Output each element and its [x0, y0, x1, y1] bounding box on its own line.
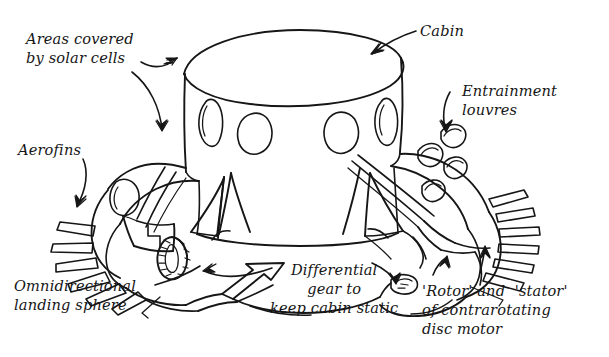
label-aerofins: Aerofins [18, 141, 81, 160]
callout-leader-diff-left [203, 264, 272, 276]
callout-leader-solar-upper [141, 58, 177, 67]
label-cabin: Cabin [420, 22, 464, 41]
callout-leader-aerofins [75, 159, 86, 207]
callout-leader-rotor-left [433, 256, 450, 275]
label-areas-covered-by-solar-cells: Areas covered by solar cells [26, 30, 134, 68]
label-differential-gear-to-keep-cabin-static: Differential gear to keep cabin static [270, 261, 398, 318]
callout-leader-solar-lower [132, 72, 168, 131]
callout-leader-rotor-right [480, 246, 490, 273]
label-omnidirectional-landing-sphere: Omnidirectional landing sphere [14, 277, 136, 315]
callout-leader-omni [155, 266, 200, 285]
label-entrainment-louvres: Entrainment louvres [462, 82, 557, 120]
label-rotor-and-stator-of-contrarotating-disc-motor: 'Rotor' and 'stator' of contrarotating d… [422, 282, 568, 339]
upper-disc [108, 154, 489, 246]
cabin-cylinder [184, 30, 403, 181]
diagram-canvas: Areas covered by solar cells Aerofins Om… [0, 0, 609, 357]
